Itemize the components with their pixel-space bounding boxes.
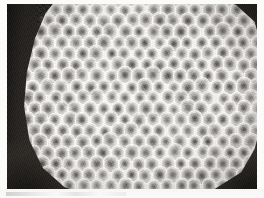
footer-smudge <box>6 192 126 196</box>
mount-footer-strip <box>0 189 264 198</box>
honeycomb-mass <box>7 4 257 189</box>
photographic-plate <box>7 4 257 189</box>
micrograph-figure <box>0 0 264 198</box>
comb-ridge-highlights <box>7 4 257 189</box>
